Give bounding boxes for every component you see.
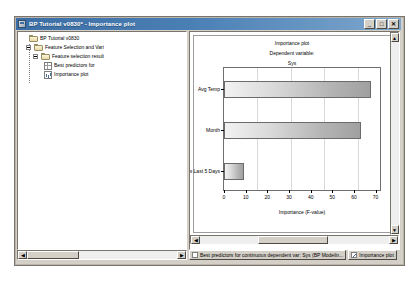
x-tick-label-0: 0 bbox=[223, 194, 226, 200]
x-tick bbox=[267, 190, 268, 193]
tab-importance-plot[interactable]: Importance plot bbox=[348, 250, 396, 260]
document-horizontal-scrollbar[interactable]: ◀ ▶ bbox=[190, 235, 399, 244]
tree-item-feature-selection-result[interactable]: Feature selection result bbox=[20, 52, 184, 61]
x-tick bbox=[224, 190, 225, 193]
chart-dependent-variable: Sys bbox=[194, 60, 390, 66]
scroll-left-button[interactable]: ◀ bbox=[191, 236, 200, 244]
scroll-thumb[interactable] bbox=[258, 236, 328, 244]
chart-icon bbox=[44, 71, 52, 79]
x-tick-label-20: 20 bbox=[265, 194, 271, 200]
tree-item-importance-plot[interactable]: Importance plot bbox=[20, 70, 184, 79]
window-controls: _ □ ✕ bbox=[364, 19, 399, 29]
tab-label: Best predictors for continuous dependent… bbox=[200, 252, 343, 258]
tree-item-label: Feature selection result bbox=[52, 53, 104, 60]
app-icon bbox=[18, 20, 26, 28]
chart-document-pane[interactable]: Importance plot Dependent variable: Sys bbox=[189, 31, 400, 250]
scroll-up-button[interactable]: ▲ bbox=[391, 33, 399, 42]
close-icon: ✕ bbox=[389, 20, 398, 28]
x-tick bbox=[376, 190, 377, 193]
y-tick bbox=[221, 171, 224, 172]
x-tick-label-10: 10 bbox=[243, 194, 249, 200]
scroll-right-button[interactable]: ▶ bbox=[389, 236, 398, 244]
x-tick bbox=[246, 190, 247, 193]
plot-area: Avg Temp Month Miles Last 5 Days 0 10 20 bbox=[223, 67, 381, 191]
expander-collapse-icon[interactable] bbox=[32, 52, 41, 61]
expander-collapse-icon[interactable] bbox=[25, 43, 34, 52]
x-tick-label-30: 30 bbox=[286, 194, 292, 200]
tree-item-bp-tutorial[interactable]: BP Tutorial v0830 bbox=[20, 34, 184, 43]
chart-icon bbox=[351, 252, 357, 258]
tree-item-best-predictors-for[interactable]: Best predictors for bbox=[20, 61, 184, 70]
y-tick-label-avg-temp: Avg Temp bbox=[198, 86, 220, 92]
minimize-icon: _ bbox=[365, 20, 374, 28]
tree-item-label: Feature Selection and Vari bbox=[45, 44, 104, 51]
tree-item-label: Best predictors for bbox=[54, 62, 95, 69]
importance-plot-chart: Importance plot Dependent variable: Sys bbox=[193, 35, 391, 233]
tree-item-label: Importance plot bbox=[54, 71, 88, 78]
bar-month[interactable] bbox=[224, 122, 361, 139]
scroll-track[interactable] bbox=[200, 236, 389, 244]
window-title: BP Tutorial v0830* - Importance plot bbox=[29, 21, 135, 27]
x-tick-label-40: 40 bbox=[308, 194, 314, 200]
tree-horizontal-scrollbar[interactable]: ◀ ▶ bbox=[17, 250, 187, 260]
maximize-icon: □ bbox=[377, 20, 386, 28]
scroll-track-vertical[interactable] bbox=[391, 42, 399, 225]
expander-placeholder bbox=[20, 34, 29, 43]
y-tick bbox=[221, 130, 224, 131]
bar-avg-temp[interactable] bbox=[224, 81, 371, 98]
scroll-right-button[interactable]: ▶ bbox=[177, 251, 186, 259]
x-tick bbox=[289, 190, 290, 193]
application-window: BP Tutorial v0830* - Importance plot _ □… bbox=[14, 16, 405, 266]
scroll-thumb[interactable] bbox=[27, 251, 79, 259]
x-tick bbox=[332, 190, 333, 193]
workbook-tab-bar[interactable]: Best predictors for continuous dependent… bbox=[189, 250, 400, 261]
screenshot-root: BP Tutorial v0830* - Importance plot _ □… bbox=[0, 0, 409, 281]
bar-miles-last-5-days[interactable] bbox=[224, 163, 244, 180]
spreadsheet-icon bbox=[192, 252, 198, 258]
tree-item-feature-selection-and-variable[interactable]: Feature Selection and Vari bbox=[20, 43, 184, 52]
maximize-button[interactable]: □ bbox=[376, 19, 387, 29]
minimize-button[interactable]: _ bbox=[364, 19, 375, 29]
client-area: BP Tutorial v0830 Feature Selection and … bbox=[17, 31, 400, 262]
scroll-track[interactable] bbox=[27, 251, 177, 259]
scroll-left-button[interactable]: ◀ bbox=[18, 251, 27, 259]
chart-title: Importance plot bbox=[194, 40, 390, 46]
tab-best-predictors[interactable]: Best predictors for continuous dependent… bbox=[189, 250, 346, 260]
close-button[interactable]: ✕ bbox=[388, 19, 399, 29]
x-tick-label-60: 60 bbox=[351, 194, 357, 200]
tree-item-label: BP Tutorial v0830 bbox=[40, 35, 79, 42]
y-tick-label-miles-last-5-days: Miles Last 5 Days bbox=[189, 168, 220, 174]
y-tick bbox=[221, 89, 224, 90]
spreadsheet-icon bbox=[44, 62, 52, 70]
folder-icon bbox=[29, 35, 38, 42]
x-tick bbox=[354, 190, 355, 193]
folder-icon bbox=[34, 44, 43, 51]
chart-subtitle: Dependent variable: bbox=[194, 50, 390, 56]
tab-label: Importance plot bbox=[359, 252, 393, 258]
title-bar[interactable]: BP Tutorial v0830* - Importance plot _ □… bbox=[16, 18, 401, 30]
y-tick-label-month: Month bbox=[206, 127, 220, 133]
workbook-tree-pane[interactable]: BP Tutorial v0830 Feature Selection and … bbox=[17, 31, 187, 250]
scroll-down-button[interactable]: ▼ bbox=[391, 225, 399, 234]
x-tick bbox=[311, 190, 312, 193]
folder-icon bbox=[41, 53, 50, 60]
x-tick-label-70: 70 bbox=[373, 194, 379, 200]
x-tick-label-50: 50 bbox=[329, 194, 335, 200]
x-axis-title: Importance (F-value) bbox=[223, 209, 381, 215]
document-vertical-scrollbar[interactable]: ▲ ▼ bbox=[390, 32, 399, 235]
